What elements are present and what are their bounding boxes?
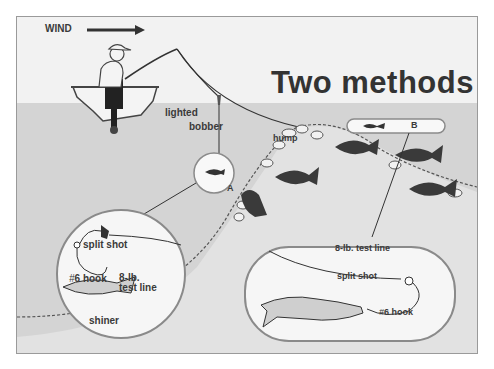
inset-b-hook-label: 6 hook [384, 307, 413, 317]
inset-a-hook-label: 6 hook [75, 273, 107, 284]
inset-b-hook: #6 hook [379, 307, 413, 317]
diagram-frame: WIND Two methods lighted bobber hump A B… [16, 16, 478, 354]
diagram-title: Two methods [271, 65, 474, 101]
lighted-label: lighted [165, 107, 198, 118]
inset-b-marker [347, 119, 445, 133]
inset-a-hook: #6 hook [69, 273, 107, 284]
inset-a-line-2: test line [119, 283, 157, 293]
inset-a-bait: shiner [89, 315, 119, 326]
inset-b-split-shot: split shot [337, 271, 377, 281]
method-a-label: A [227, 183, 234, 193]
wind-label: WIND [45, 23, 72, 34]
method-b-label: B [411, 120, 418, 130]
inset-b-line: 8-lb. test line [335, 243, 390, 253]
hump-label: hump [273, 133, 298, 143]
bobber-label: bobber [189, 121, 223, 132]
inset-a-split-shot: split shot [83, 239, 127, 250]
inset-a-line-label: 8-lb. test line [119, 273, 157, 293]
